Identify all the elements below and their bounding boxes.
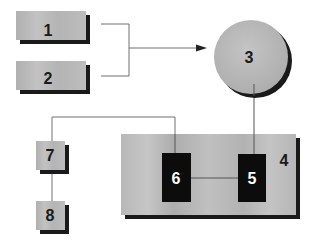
- connector-bracket-1-2-to-3: [101, 24, 198, 76]
- node-6-label: 6: [172, 170, 181, 187]
- diagram-canvas: 1 2 3 4 6 5 7 8: [0, 0, 312, 245]
- node-2: 2: [16, 61, 90, 94]
- node-8: 8: [36, 201, 69, 234]
- node-5-label: 5: [248, 170, 257, 187]
- node-1-label: 1: [44, 22, 53, 39]
- node-4-label: 4: [280, 152, 289, 169]
- arrowhead-icon: [196, 45, 207, 52]
- node-1: 1: [16, 11, 90, 44]
- node-3: 3: [214, 20, 292, 98]
- node-6: 6: [162, 153, 191, 202]
- node-4-container: 4: [121, 134, 300, 219]
- node-7: 7: [36, 141, 69, 174]
- node-8-label: 8: [46, 207, 55, 224]
- node-5: 5: [238, 154, 266, 202]
- node-2-label: 2: [44, 70, 53, 87]
- node-3-label: 3: [245, 49, 254, 66]
- node-7-label: 7: [46, 147, 55, 164]
